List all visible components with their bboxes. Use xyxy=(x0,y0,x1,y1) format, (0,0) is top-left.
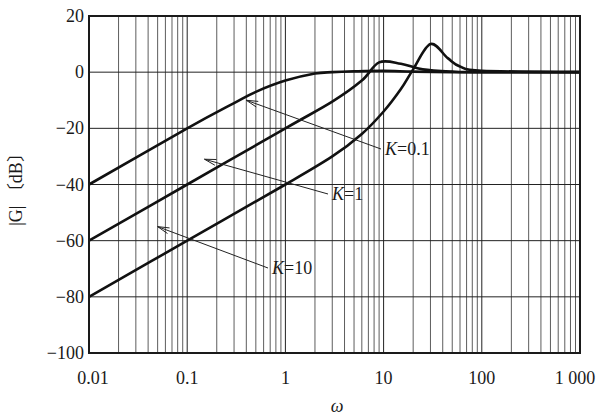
annotation-arrow xyxy=(204,159,328,194)
annotation-label: K=0.1 xyxy=(384,139,430,159)
data-series xyxy=(89,44,580,297)
series-curve-k10 xyxy=(89,44,580,297)
annotation-k: K xyxy=(384,139,398,159)
x-axis-title: ω xyxy=(331,396,344,416)
x-tick-label: 1 xyxy=(281,368,290,388)
annotation-value: =10 xyxy=(284,258,312,278)
curve-annotations: K=0.1K=1K=10 xyxy=(158,100,430,278)
y-tick-label: −40 xyxy=(56,175,84,195)
annotation-arrow xyxy=(246,100,381,149)
annotation-value: =0.1 xyxy=(397,139,430,159)
x-tick-label: 0.1 xyxy=(176,368,199,388)
y-tick-label: −80 xyxy=(56,287,84,307)
x-tick-label: 0.01 xyxy=(77,368,109,388)
y-axis-tick-labels: 200−20−40−60−80−100 xyxy=(47,6,84,363)
y-tick-label: −60 xyxy=(56,231,84,251)
y-tick-label: 20 xyxy=(66,6,84,26)
y-tick-label: 0 xyxy=(75,62,84,82)
x-axis-tick-labels: 0.010.11101001 000 xyxy=(77,368,595,388)
series-curve-k01 xyxy=(89,71,580,185)
annotation-k: K xyxy=(331,184,345,204)
series-curve-k1 xyxy=(89,61,580,240)
y-tick-label: −100 xyxy=(47,343,84,363)
annotation-label: K=10 xyxy=(271,258,312,278)
bode-magnitude-chart: K=0.1K=1K=10 200−20−40−60−80−100 0.010.1… xyxy=(0,0,611,418)
x-tick-label: 10 xyxy=(375,368,393,388)
annotation-value: =1 xyxy=(344,184,363,204)
annotation-k: K xyxy=(271,258,285,278)
annotation-label: K=1 xyxy=(331,184,363,204)
y-axis-title: |G| 〔dB〕 xyxy=(6,144,26,226)
x-tick-label: 100 xyxy=(468,368,495,388)
x-tick-label: 1 000 xyxy=(555,368,596,388)
y-tick-label: −20 xyxy=(56,118,84,138)
